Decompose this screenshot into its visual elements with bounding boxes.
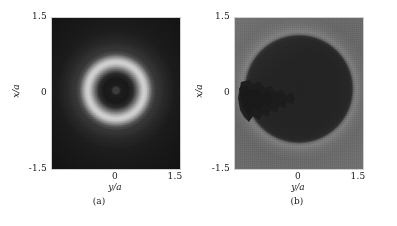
x-tick-label-mid-b: 0 [286,171,310,181]
x-axis-label-b: y/a [286,182,310,192]
x-tick-label-right-a: 1.5 [163,171,187,181]
plot-area-a [51,17,181,170]
plot-area-b [234,17,364,170]
y-tick-label-mid-a: 0 [22,87,47,97]
panel-caption-a: (a) [0,196,198,206]
y-tick-label-top-a: 1.5 [22,11,47,21]
x-tick-label-mid-a: 0 [103,171,127,181]
y-tick-label-top-b: 1.5 [205,11,230,21]
panel-caption-b: (b) [198,196,396,206]
y-tick-label-bottom-a: -1.5 [16,163,47,173]
panel-a: 1.5 0 -1.5 0 1.5 x/a y/a (a) [0,0,198,226]
figure-container: 1.5 0 -1.5 0 1.5 x/a y/a (a) 1.5 0 [0,0,397,226]
y-axis-label-a: x/a [11,71,21,111]
y-tick-label-mid-b: 0 [205,87,230,97]
y-tick-label-bottom-b: -1.5 [199,163,230,173]
y-axis-label-b: x/a [194,71,204,111]
heatmap-b-noise [235,18,363,169]
heatmap-a-noise [52,18,180,169]
panel-b: 1.5 0 -1.5 0 1.5 x/a y/a (b) [198,0,396,226]
x-tick-label-right-b: 1.5 [346,171,370,181]
x-axis-label-a: y/a [103,182,127,192]
